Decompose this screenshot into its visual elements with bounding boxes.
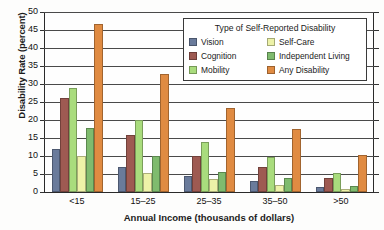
right-tick-mark <box>374 12 379 13</box>
right-tick-mark <box>374 66 379 67</box>
legend-swatch <box>189 52 197 60</box>
legend-title: Type of Self-Reported Disability <box>189 23 361 33</box>
bar <box>69 88 78 192</box>
right-tick-mark <box>374 30 379 31</box>
bar <box>160 74 169 192</box>
legend-label: Any Disability <box>279 65 329 75</box>
legend-swatch <box>267 38 275 46</box>
legend-swatch <box>189 38 197 46</box>
bar <box>292 129 301 192</box>
bar <box>284 178 293 192</box>
right-tick-mark <box>374 120 379 121</box>
y-tick-mark <box>40 48 44 49</box>
y-tick-label: 30 <box>14 79 38 88</box>
y-tick-mark <box>40 192 44 193</box>
y-tick-label: 45 <box>14 25 38 34</box>
legend-item: Independent Living <box>267 51 361 61</box>
bar <box>184 176 193 192</box>
x-tick-label: >50 <box>308 196 374 206</box>
y-tick-mark <box>40 156 44 157</box>
bar <box>126 135 135 192</box>
bar-chart: Disability Rate (percent) 05101520253035… <box>0 0 384 230</box>
bar <box>135 120 144 192</box>
y-tick-label: 5 <box>14 169 38 178</box>
right-tick-mark <box>374 156 379 157</box>
y-tick-mark <box>40 102 44 103</box>
y-tick-mark <box>40 174 44 175</box>
legend-item: Self-Care <box>267 37 361 47</box>
x-tick-label: 35–50 <box>242 196 308 206</box>
legend: Type of Self-Reported Disability VisionS… <box>183 18 367 81</box>
legend-item: Cognition <box>189 51 265 61</box>
bar <box>350 186 359 192</box>
bar <box>275 185 284 192</box>
bar <box>86 128 95 192</box>
y-tick-label: 20 <box>14 115 38 124</box>
bar <box>192 156 201 192</box>
y-tick-mark <box>40 12 44 13</box>
x-axis-title: Annual Income (thousands of dollars) <box>44 212 374 223</box>
legend-item: Vision <box>189 37 265 47</box>
legend-label: Mobility <box>201 65 229 75</box>
right-tick-mark <box>374 174 379 175</box>
bar <box>316 187 325 192</box>
y-tick-label: 25 <box>14 97 38 106</box>
y-tick-mark <box>40 66 44 67</box>
bar <box>341 189 350 192</box>
x-tick-label: 15–25 <box>110 196 176 206</box>
bar <box>60 98 69 192</box>
bar <box>267 157 276 192</box>
y-tick-mark <box>40 84 44 85</box>
bar <box>201 142 210 192</box>
right-tick-mark <box>374 138 379 139</box>
y-tick-mark <box>40 120 44 121</box>
legend-item: Mobility <box>189 65 265 75</box>
bar <box>94 24 103 192</box>
y-tick-label: 50 <box>14 7 38 16</box>
x-tick-label: 25–35 <box>176 196 242 206</box>
right-tick-mark <box>374 84 379 85</box>
bar-group <box>110 12 176 192</box>
bar <box>250 181 259 192</box>
y-tick-mark <box>40 30 44 31</box>
gridline <box>44 192 374 193</box>
bar <box>143 173 152 192</box>
bar <box>77 156 86 192</box>
bar <box>333 173 342 192</box>
bar <box>118 167 127 192</box>
legend-label: Independent Living <box>279 51 350 61</box>
y-tick-label: 35 <box>14 61 38 70</box>
legend-label: Cognition <box>201 51 236 61</box>
x-tick-label: <15 <box>44 196 110 206</box>
y-tick-mark <box>40 138 44 139</box>
y-tick-label: 0 <box>14 187 38 196</box>
legend-label: Self-Care <box>279 37 314 47</box>
bar <box>52 149 61 192</box>
legend-swatch <box>267 52 275 60</box>
legend-label: Vision <box>201 37 224 47</box>
y-tick-label: 40 <box>14 43 38 52</box>
y-tick-label: 10 <box>14 151 38 160</box>
bar <box>209 179 218 192</box>
bar <box>226 108 235 192</box>
right-tick-mark <box>374 102 379 103</box>
bar-group <box>44 12 110 192</box>
bar <box>324 178 333 192</box>
legend-items: VisionSelf-CareCognitionIndependent Livi… <box>189 37 361 75</box>
right-tick-mark <box>374 48 379 49</box>
x-axis-tick-labels: <1515–2525–3535–50>50 <box>44 196 374 206</box>
bar <box>152 156 161 192</box>
right-tick-mark <box>374 192 379 193</box>
bar <box>218 172 227 192</box>
bar <box>258 167 267 192</box>
legend-swatch <box>267 66 275 74</box>
legend-item: Any Disability <box>267 65 361 75</box>
legend-swatch <box>189 66 197 74</box>
y-tick-label: 15 <box>14 133 38 142</box>
bar <box>358 155 367 192</box>
